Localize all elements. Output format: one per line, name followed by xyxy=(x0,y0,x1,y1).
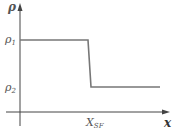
step-density-diagram xyxy=(0,0,173,132)
x-axis-label: x xyxy=(164,117,171,129)
y-axis-arrow-icon xyxy=(18,3,23,11)
level-label-rho2-subscript: 2 xyxy=(11,87,15,95)
x-marker-label: XSF xyxy=(86,117,104,130)
level-label-rho1: ρ1 xyxy=(5,34,16,47)
y-axis-label-text: ρ xyxy=(8,0,16,14)
x-marker-subscript: SF xyxy=(94,122,104,130)
y-axis-label: ρ xyxy=(8,1,16,13)
level-label-rho2: ρ2 xyxy=(5,82,16,95)
x-axis-arrow-icon xyxy=(162,110,170,115)
x-marker-symbol: X xyxy=(86,116,94,129)
level-label-rho1-subscript: 1 xyxy=(11,39,15,47)
density-step-curve xyxy=(20,40,160,87)
x-axis-label-text: x xyxy=(164,116,171,130)
